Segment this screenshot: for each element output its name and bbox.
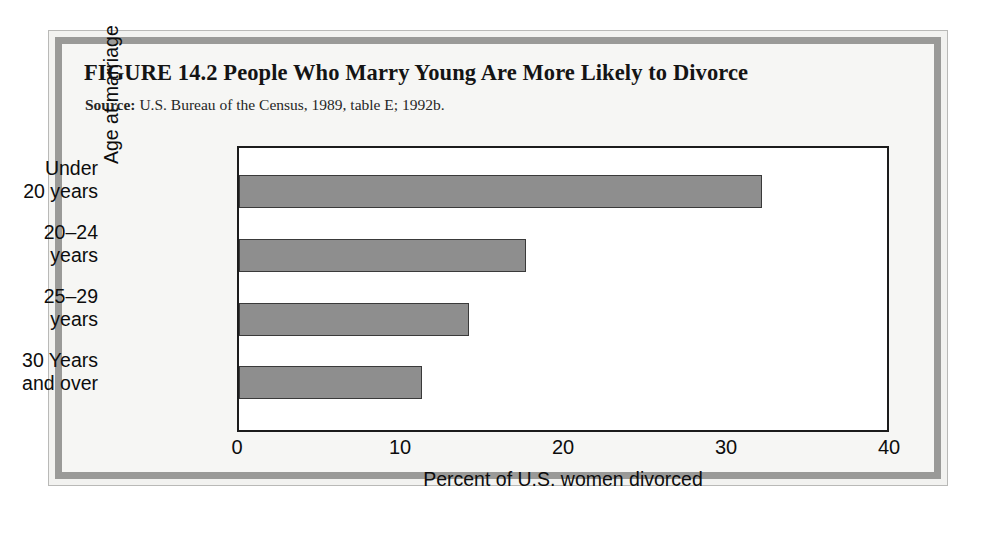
y-category-label-1-line-1: years (0, 244, 98, 267)
y-category-label-1: 20–24 years (0, 221, 98, 267)
bar-under-20-years (239, 175, 762, 208)
y-category-label-3-line-1: and over (0, 372, 98, 395)
figure-inner-frame: FIGURE 14.2 People Who Marry Young Are M… (55, 37, 941, 479)
y-axis-title: Age at marriage (100, 0, 123, 164)
y-category-label-1-line-0: 20–24 (0, 221, 98, 244)
y-category-label-2-line-1: years (0, 308, 98, 331)
bar-30-years-and-over (239, 366, 422, 399)
figure-outer-frame: FIGURE 14.2 People Who Marry Young Are M… (48, 30, 948, 486)
x-axis-title: Percent of U.S. women divorced (237, 468, 889, 491)
y-category-label-3-line-0: 30 Years (0, 349, 98, 372)
plot-area (237, 146, 889, 432)
y-category-label-0: Under 20 years (0, 157, 98, 203)
y-category-label-0-line-0: Under (0, 157, 98, 180)
x-tick-label-4: 40 (859, 436, 919, 459)
x-tick-label-0: 0 (207, 436, 267, 459)
y-category-label-2-line-0: 25–29 (0, 285, 98, 308)
figure-body: FIGURE 14.2 People Who Marry Young Are M… (62, 44, 934, 472)
x-tick-label-3: 30 (696, 436, 756, 459)
x-tick-label-2: 20 (533, 436, 593, 459)
bar-25-29-years (239, 303, 469, 336)
bars-layer (239, 148, 887, 430)
bar-20-24-years (239, 239, 526, 272)
x-tick-label-1: 10 (370, 436, 430, 459)
y-category-label-2: 25–29 years (0, 285, 98, 331)
y-category-label-3: 30 Years and over (0, 349, 98, 395)
bar-chart: Age at marriage Under 20 years 20–24 yea… (62, 44, 934, 472)
y-category-label-0-line-1: 20 years (0, 180, 98, 203)
